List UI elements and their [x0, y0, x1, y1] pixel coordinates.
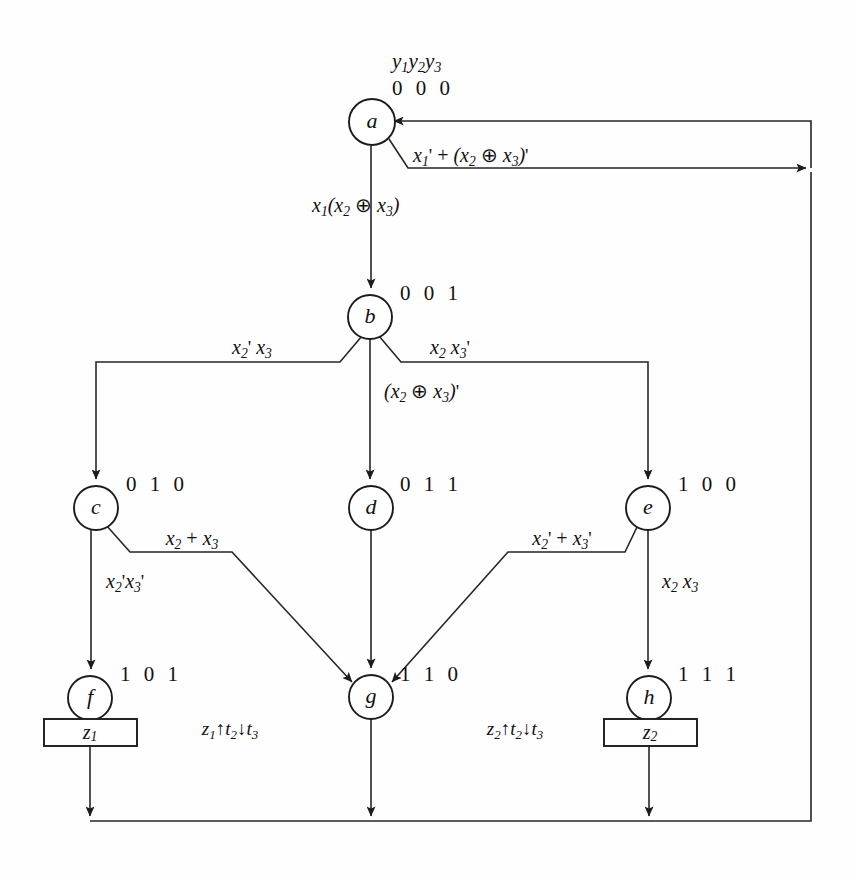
node-b[interactable]: b [348, 295, 392, 339]
state-diagram-svg: a b c d e f g h [0, 0, 851, 880]
edge-label-a-to-b: x1(x2 ⊕ x3) [311, 194, 400, 219]
edge-label-c-to-g: x2 + x3 [165, 527, 219, 552]
edge-label-c-to-f: x2'x3' [105, 570, 144, 595]
node-c-label: c [91, 494, 101, 519]
state-code-b: 0 0 1 [400, 281, 462, 305]
node-g-label: g [366, 683, 377, 708]
edge-c-to-g [106, 525, 352, 682]
node-e[interactable]: e [626, 486, 670, 530]
state-code-e: 1 0 0 [678, 472, 740, 496]
node-a-label: a [367, 108, 378, 133]
state-diagram-canvas: a b c d e f g h [0, 0, 851, 880]
node-d[interactable]: d [349, 486, 393, 530]
return-rail [90, 172, 811, 821]
node-g[interactable]: g [349, 675, 393, 719]
edge-label-b-to-c: x2' x3 [231, 336, 272, 361]
node-h-label: h [644, 684, 655, 709]
node-e-label: e [643, 494, 653, 519]
node-b-label: b [365, 303, 376, 328]
edge-label-e-to-g: x2' + x3' [531, 527, 592, 552]
action-label-z1: z1↑t2↓t3 [201, 718, 258, 742]
node-c[interactable]: c [74, 486, 118, 530]
edge-e-to-g [392, 525, 638, 682]
output-box-z2[interactable]: z2 [604, 719, 697, 746]
edge-b-to-c [96, 336, 362, 479]
node-h[interactable]: h [627, 676, 671, 720]
state-code-g: 1 1 0 [400, 662, 462, 686]
state-code-f: 1 0 1 [120, 662, 182, 686]
state-code-a: 0 0 0 [392, 76, 454, 100]
edge-label-a-to-a: x1' + (x2 ⊕ x3)' [412, 144, 529, 169]
node-d-label: d [366, 494, 378, 519]
output-box-z1[interactable]: z1 [44, 719, 137, 746]
state-code-h: 1 1 1 [678, 662, 740, 686]
edge-label-e-to-h: x2 x3 [661, 570, 699, 595]
node-f[interactable]: f [68, 676, 112, 720]
state-code-c: 0 1 0 [126, 472, 188, 496]
node-a[interactable]: a [349, 99, 395, 145]
state-code-d: 0 1 1 [400, 472, 462, 496]
state-variable-header: y1y2y3 [390, 49, 441, 75]
action-label-z2: z2↑t2↓t3 [486, 718, 543, 742]
edge-b-to-e [379, 336, 648, 479]
edge-label-b-to-d: (x2 ⊕ x3)' [384, 380, 459, 405]
edge-label-b-to-e: x2 x3' [429, 336, 470, 361]
